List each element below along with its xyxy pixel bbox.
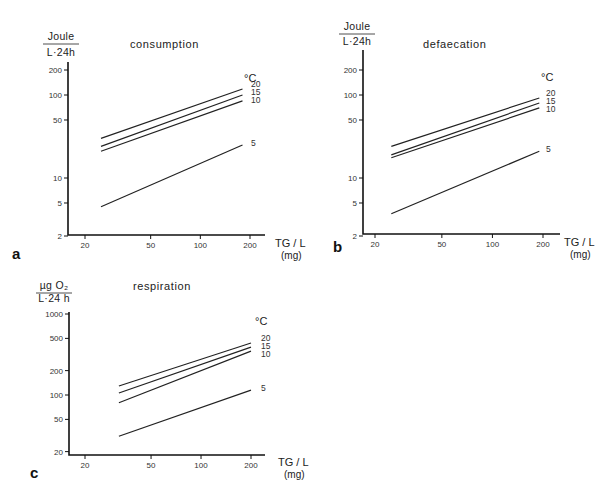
series-line-15C bbox=[391, 103, 539, 155]
y-tick-label: 5 bbox=[353, 199, 358, 208]
y-tick-label: 2 bbox=[58, 232, 63, 241]
y-tick-label: 50 bbox=[53, 116, 62, 125]
x-tick-label: 200 bbox=[244, 461, 258, 470]
x-tick-label: 20 bbox=[81, 241, 90, 250]
y-tick-label: 1000 bbox=[45, 310, 63, 319]
x-tick-label: 50 bbox=[146, 241, 155, 250]
x-axis-unit: (mg) bbox=[570, 249, 591, 260]
x-tick-label: 20 bbox=[371, 240, 380, 249]
series-label: 10 bbox=[261, 349, 271, 359]
chart-title: consumption bbox=[130, 38, 199, 50]
y-tick-label: 200 bbox=[344, 66, 358, 75]
chart-panel-a: 25105010020020501002002015105°Cconsumpti… bbox=[12, 30, 306, 262]
series-label: 5 bbox=[251, 138, 256, 148]
y-tick-label: 200 bbox=[50, 367, 64, 376]
legend-title: °C bbox=[244, 72, 256, 84]
y-tick-label: 50 bbox=[54, 415, 63, 424]
y-unit-denominator: L·24h bbox=[47, 46, 75, 58]
y-tick-label: 2 bbox=[353, 232, 358, 241]
y-tick-label: 20 bbox=[54, 448, 63, 457]
figure: 25105010020020501002002015105°Cconsumpti… bbox=[0, 0, 612, 494]
y-unit-denominator: L·24h bbox=[343, 35, 371, 47]
y-unit-numerator: µg O₂ bbox=[40, 279, 69, 291]
series-line-20C bbox=[101, 89, 243, 138]
y-unit-numerator: Joule bbox=[344, 20, 371, 32]
panel-letter: a bbox=[12, 245, 21, 262]
x-tick-label: 20 bbox=[81, 461, 90, 470]
x-axis-unit: (mg) bbox=[284, 469, 305, 480]
y-unit-denominator: L·24 h bbox=[38, 292, 70, 304]
chart-title: respiration bbox=[133, 280, 191, 292]
x-axis-unit: (mg) bbox=[281, 250, 302, 261]
y-tick-label: 10 bbox=[53, 174, 62, 183]
axes bbox=[363, 50, 560, 234]
x-axis-label: TG / L bbox=[278, 456, 309, 468]
chart-panel-c: 2050100200500100020501002002015105°Cresp… bbox=[30, 279, 309, 481]
series-line-10C bbox=[391, 108, 539, 158]
series-label: 10 bbox=[546, 104, 556, 114]
series-label: 5 bbox=[261, 383, 266, 393]
series-line-15C bbox=[119, 347, 251, 393]
y-unit-numerator: Joule bbox=[48, 30, 75, 42]
x-tick-label: 200 bbox=[536, 240, 550, 249]
legend-title: °C bbox=[255, 315, 267, 327]
series-line-5C bbox=[391, 151, 539, 214]
y-tick-label: 50 bbox=[348, 116, 357, 125]
y-tick-label: 100 bbox=[344, 91, 358, 100]
y-tick-label: 5 bbox=[58, 199, 63, 208]
y-tick-label: 500 bbox=[50, 334, 64, 343]
x-tick-label: 100 bbox=[194, 241, 208, 250]
y-tick-label: 200 bbox=[49, 66, 63, 75]
series-line-5C bbox=[119, 390, 251, 436]
x-tick-label: 100 bbox=[194, 461, 208, 470]
series-line-15C bbox=[101, 95, 243, 146]
chart-panel-b: 25105010020020501002002015105°Cdefaecati… bbox=[333, 20, 595, 260]
y-tick-label: 10 bbox=[348, 174, 357, 183]
series-label: 5 bbox=[546, 144, 551, 154]
series-line-5C bbox=[101, 145, 243, 207]
series-line-20C bbox=[119, 343, 251, 386]
chart-title: defaecation bbox=[423, 38, 486, 50]
x-axis-label: TG / L bbox=[564, 236, 595, 248]
legend-title: °C bbox=[541, 71, 553, 83]
x-tick-label: 50 bbox=[437, 240, 446, 249]
series-line-10C bbox=[119, 351, 251, 403]
y-tick-label: 100 bbox=[49, 91, 63, 100]
series-label: 10 bbox=[251, 95, 261, 105]
series-line-10C bbox=[101, 101, 243, 151]
panel-letter: c bbox=[30, 464, 38, 481]
x-axis-label: TG / L bbox=[275, 237, 306, 249]
x-tick-label: 200 bbox=[243, 241, 257, 250]
x-tick-label: 100 bbox=[486, 240, 500, 249]
y-tick-label: 100 bbox=[50, 391, 64, 400]
panel-letter: b bbox=[333, 238, 342, 255]
x-tick-label: 50 bbox=[147, 461, 156, 470]
series-line-20C bbox=[391, 98, 539, 146]
